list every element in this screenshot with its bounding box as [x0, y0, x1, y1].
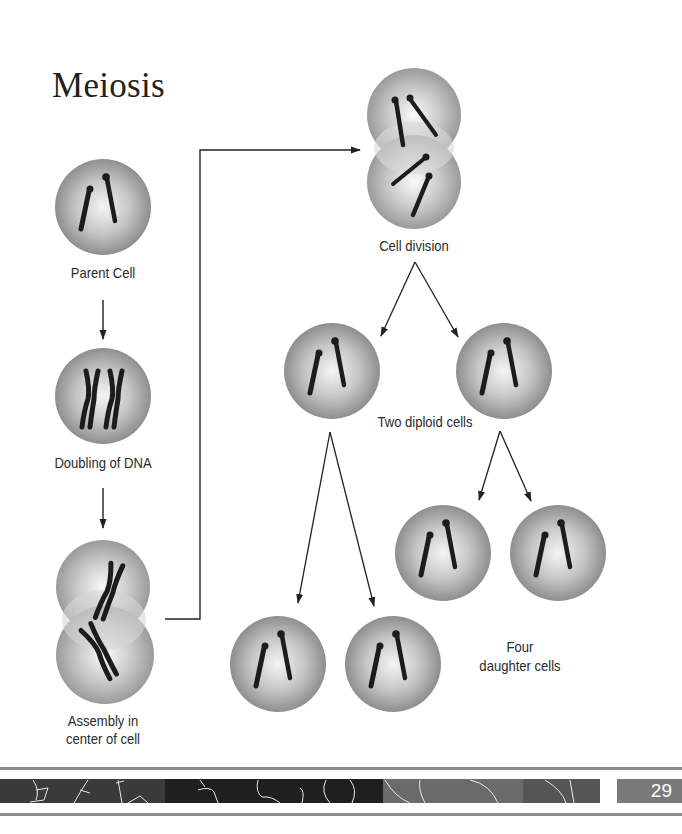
label-two-diploid-cells: Two diploid cells — [362, 413, 488, 432]
daughter-cell-4 — [510, 505, 606, 601]
label-assembly-line1: Assembly in — [49, 712, 157, 731]
assembly-cell — [56, 540, 154, 704]
diploid-cell-right — [456, 323, 552, 419]
arrow-diploid-right-to-daughter-4 — [500, 431, 531, 501]
label-four-line2: daughter cells — [466, 657, 574, 676]
label-assembly-line2: center of cell — [49, 730, 157, 749]
page-number: 29 — [651, 780, 672, 802]
label-parent-cell: Parent Cell — [58, 264, 148, 283]
label-four-line1: Four — [475, 638, 565, 657]
arrow-diploid-left-to-daughter-1 — [298, 432, 330, 603]
daughter-cell-3 — [395, 505, 491, 601]
arrow-diploid-left-to-daughter-2 — [330, 432, 374, 606]
daughter-cell-2 — [345, 616, 441, 712]
footer-bottom-rule — [0, 813, 682, 816]
diploid-cell-left — [284, 323, 380, 419]
footer-top-rule — [0, 767, 682, 770]
arrow-division-to-diploid-left — [381, 262, 415, 336]
daughter-cell-1 — [230, 616, 326, 712]
meiosis-diagram — [0, 0, 682, 834]
arrow-division-to-diploid-right — [415, 262, 458, 337]
label-doubling-of-dna: Doubling of DNA — [40, 454, 166, 473]
doubling-cell — [55, 348, 151, 444]
cell-division-cell — [367, 68, 461, 229]
arrow-diploid-right-to-daughter-3 — [479, 431, 500, 500]
label-cell-division: Cell division — [360, 237, 468, 256]
parent-cell — [55, 159, 151, 255]
footer-decorative-band — [0, 779, 600, 803]
page-number-box: 29 — [617, 779, 682, 803]
